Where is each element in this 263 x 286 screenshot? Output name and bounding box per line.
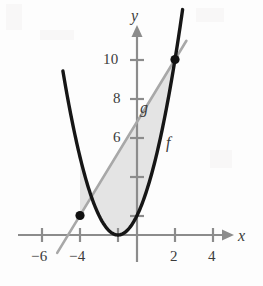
x-tick-label-neg6: −6 — [31, 249, 47, 264]
x-tick-label-neg4: −4 — [69, 249, 85, 264]
curve-g-label: g — [140, 100, 148, 116]
intersection-point-right — [170, 55, 179, 64]
y-tick-label-6: 6 — [113, 130, 121, 145]
y-axis-label: y — [131, 8, 138, 24]
plot-area — [0, 0, 263, 286]
x-axis-arrowhead — [222, 230, 234, 241]
y-tick-label-10: 10 — [103, 52, 118, 67]
curve-f-label: f — [166, 135, 170, 151]
graph-figure: y x g f 10 8 6 −6 −4 2 4 — [0, 0, 263, 286]
y-tick-label-8: 8 — [113, 91, 121, 106]
x-tick-label-4: 4 — [208, 249, 216, 264]
x-tick-label-2: 2 — [170, 249, 178, 264]
x-axis-label: x — [238, 228, 245, 244]
y-axis-arrowhead — [132, 25, 143, 37]
intersection-point-left — [75, 211, 84, 220]
